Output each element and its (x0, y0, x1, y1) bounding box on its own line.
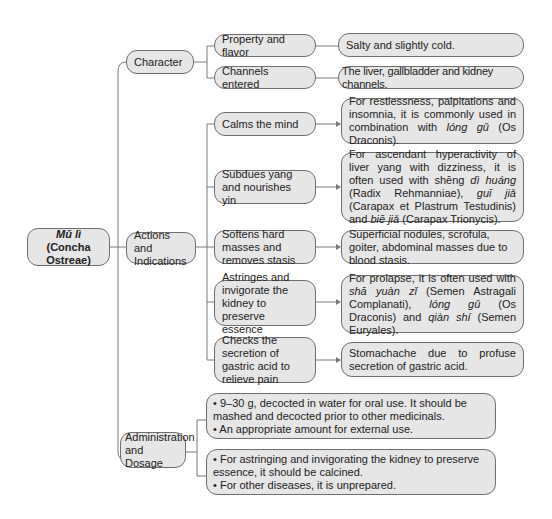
action-calms-mind-node[interactable]: Calms the mind (214, 112, 316, 136)
action-subdues-yang-detail[interactable]: For ascendant hyperactivity of liver yan… (341, 152, 524, 222)
branch-actions-label: Actions and Indications (134, 229, 188, 268)
character-channels-detail[interactable]: The liver, gallbladder and kidney channe… (338, 66, 524, 89)
action-checks-acid-label: Checks the secretion of gastric acid to … (222, 334, 308, 386)
action-softens-masses-detail[interactable]: Superficial nodules, scrofula, goiter, a… (341, 230, 524, 264)
action-calms-mind-detail[interactable]: For restlessness, palpitations and insom… (341, 98, 524, 144)
action-checks-acid-detail-text: Stomachache due to profuse secretion of … (349, 347, 516, 373)
character-channels-node[interactable]: Channels entered (214, 66, 316, 89)
branch-actions[interactable]: Actions and Indications (126, 232, 196, 264)
action-astringes-kidney-node[interactable]: Astringes and invigorate the kidney to p… (214, 280, 316, 326)
admin-preparation-detail[interactable]: • For astringing and invigorating the ki… (206, 449, 496, 495)
action-astringes-kidney-label: Astringes and invigorate the kidney to p… (222, 271, 308, 336)
character-channels-label: Channels entered (222, 65, 308, 91)
branch-administration-label: Administration and Dosage (125, 431, 181, 470)
root-title: Mǔ lì (35, 228, 102, 241)
character-property-detail-text: Salty and slightly cold. (346, 39, 516, 52)
admin-preparation-bullet: • For astringing and invigorating the ki… (213, 453, 489, 479)
root-subtitle: (Concha Ostreae) (35, 241, 102, 267)
admin-preparation-bullet: • For other diseases, it is unprepared. (213, 479, 489, 492)
action-calms-mind-label: Calms the mind (222, 118, 308, 131)
action-checks-acid-node[interactable]: Checks the secretion of gastric acid to … (214, 337, 316, 383)
character-channels-detail-text: The liver, gallbladder and kidney channe… (342, 65, 520, 91)
branch-administration[interactable]: Administration and Dosage (120, 432, 186, 468)
branch-character-label: Character (134, 56, 186, 69)
action-softens-masses-node[interactable]: Softens hard masses and removes stasis (214, 230, 316, 264)
character-property-label: Property and flavor (222, 33, 308, 59)
action-subdues-yang-node[interactable]: Subdues yang and nourishes yin (214, 170, 316, 204)
action-subdues-yang-detail-text: For ascendant hyperactivity of liver yan… (349, 148, 516, 226)
admin-dosage-bullet: • An appropriate amount for external use… (213, 423, 489, 436)
action-calms-mind-detail-text: For restlessness, palpitations and insom… (349, 95, 516, 147)
character-property-detail[interactable]: Salty and slightly cold. (338, 33, 524, 57)
root-node[interactable]: Mǔ lì (Concha Ostreae) (27, 228, 110, 266)
action-softens-masses-detail-text: Superficial nodules, scrofula, goiter, a… (349, 228, 516, 267)
branch-character[interactable]: Character (126, 50, 194, 74)
action-astringes-kidney-detail-text: For prolapse, it is often used with shā … (349, 272, 516, 337)
action-astringes-kidney-detail[interactable]: For prolapse, it is often used with shā … (341, 275, 524, 333)
action-softens-masses-label: Softens hard masses and removes stasis (222, 228, 308, 267)
admin-dosage-detail[interactable]: • 9–30 g, decocted in water for oral use… (206, 393, 496, 439)
character-property-node[interactable]: Property and flavor (214, 34, 316, 57)
admin-dosage-bullet: • 9–30 g, decocted in water for oral use… (213, 397, 489, 423)
action-checks-acid-detail[interactable]: Stomachache due to profuse secretion of … (341, 342, 524, 377)
action-subdues-yang-label: Subdues yang and nourishes yin (222, 168, 308, 207)
